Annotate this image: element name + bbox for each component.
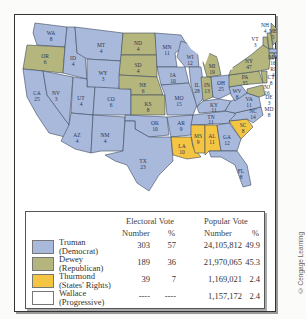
svg-text:12: 12 xyxy=(187,60,193,66)
svg-text:4: 4 xyxy=(72,61,75,67)
svg-text:11: 11 xyxy=(208,119,214,125)
svg-text:8: 8 xyxy=(147,107,150,113)
state-MA xyxy=(269,49,277,53)
svg-text:8: 8 xyxy=(236,94,239,100)
svg-text:4: 4 xyxy=(137,46,140,52)
svg-text:23: 23 xyxy=(140,164,146,170)
ev-pct: 7 xyxy=(162,274,176,284)
candidate-label: Wallace(Progressive) xyxy=(59,289,104,306)
header-electoral-vote: Electoral Vote xyxy=(126,216,174,226)
svg-text:8: 8 xyxy=(270,80,273,86)
svg-text:12: 12 xyxy=(224,140,230,146)
svg-text:4: 4 xyxy=(137,68,140,74)
state-FL xyxy=(209,151,251,187)
candidate-label: Truman(Democrat) xyxy=(59,238,98,255)
swatch-dewey xyxy=(32,257,54,271)
states-layer xyxy=(23,23,277,191)
header-pv-pct: % xyxy=(252,228,259,238)
ev-number: 303 xyxy=(130,240,150,250)
svg-text:11: 11 xyxy=(246,102,252,108)
ev-pct: ---- xyxy=(162,291,176,301)
us-map-svg: WA8 OR6 CA25 ID4 NV3 MT4 WY3 UT4 CO6 AZ4… xyxy=(15,15,277,205)
pv-pct: 49.9 xyxy=(244,240,260,250)
svg-text:9: 9 xyxy=(180,126,183,132)
ev-pct: 36 xyxy=(162,257,176,267)
pv-number: 1,169,021 xyxy=(192,274,242,284)
header-ev-pct: % xyxy=(168,228,175,238)
svg-text:3: 3 xyxy=(55,96,58,102)
map-figure: WA8 OR6 CA25 ID4 NV3 MT4 WY3 UT4 CO6 AZ4… xyxy=(14,14,276,312)
candidate-label: Thurmond(States' Rights) xyxy=(59,272,111,289)
ev-number: ---- xyxy=(130,291,150,301)
svg-text:25: 25 xyxy=(34,96,40,102)
svg-text:6: 6 xyxy=(110,102,113,108)
pv-number: 24,105,812 xyxy=(192,240,242,250)
svg-text:8: 8 xyxy=(50,36,53,42)
svg-text:4: 4 xyxy=(76,138,79,144)
svg-text:8: 8 xyxy=(242,128,245,134)
results-table: Electoral Vote Popular Vote Number % Num… xyxy=(25,211,265,309)
svg-text:6: 6 xyxy=(44,59,47,65)
swatch-wallace xyxy=(32,291,54,305)
header-popular-vote: Popular Vote xyxy=(204,216,248,226)
ev-pct: 57 xyxy=(162,240,176,250)
svg-text:47: 47 xyxy=(246,64,252,70)
svg-text:15: 15 xyxy=(176,101,182,107)
svg-text:10: 10 xyxy=(152,126,158,132)
svg-text:3: 3 xyxy=(102,76,105,82)
candidate-label: Dewey(Republican) xyxy=(59,255,103,272)
table-row-wallace: Wallace(Progressive) ---- ---- 1,157,172… xyxy=(26,289,264,309)
svg-text:11: 11 xyxy=(209,139,215,145)
svg-text:11: 11 xyxy=(164,50,170,56)
svg-text:4: 4 xyxy=(104,138,107,144)
ev-number: 39 xyxy=(130,274,150,284)
svg-text:25: 25 xyxy=(218,86,224,92)
swatch-thurmond xyxy=(32,274,54,288)
svg-text:8: 8 xyxy=(240,174,243,180)
svg-text:6: 6 xyxy=(142,88,145,94)
svg-text:4: 4 xyxy=(100,48,103,54)
pv-pct: 45.3 xyxy=(244,257,260,267)
svg-text:5: 5 xyxy=(272,34,275,40)
pv-number: 21,970,065 xyxy=(192,257,242,267)
svg-text:13: 13 xyxy=(204,88,210,94)
svg-text:3: 3 xyxy=(254,42,257,48)
svg-text:10: 10 xyxy=(179,149,185,155)
header-pv-number: Number xyxy=(204,228,232,238)
svg-text:19: 19 xyxy=(209,69,215,75)
svg-text:4: 4 xyxy=(264,28,267,34)
ev-number: 189 xyxy=(130,257,150,267)
pv-pct: 2.4 xyxy=(244,291,260,301)
svg-text:14: 14 xyxy=(250,114,256,120)
svg-text:35: 35 xyxy=(242,80,248,86)
svg-text:28: 28 xyxy=(194,88,200,94)
svg-text:9: 9 xyxy=(197,139,200,145)
pv-number: 1,157,172 xyxy=(192,291,242,301)
copyright-credit: © Cengage Learning xyxy=(297,232,304,294)
swatch-truman xyxy=(32,240,54,254)
party-name: (Progressive) xyxy=(59,297,104,307)
svg-text:11: 11 xyxy=(211,107,217,113)
svg-text:4: 4 xyxy=(80,101,83,107)
us-election-map: WA8 OR6 CA25 ID4 NV3 MT4 WY3 UT4 CO6 AZ4… xyxy=(15,15,277,205)
header-ev-number: Number xyxy=(122,228,150,238)
pv-pct: 2.4 xyxy=(244,274,260,284)
svg-text:10: 10 xyxy=(170,78,176,84)
svg-text:8: 8 xyxy=(268,112,271,118)
